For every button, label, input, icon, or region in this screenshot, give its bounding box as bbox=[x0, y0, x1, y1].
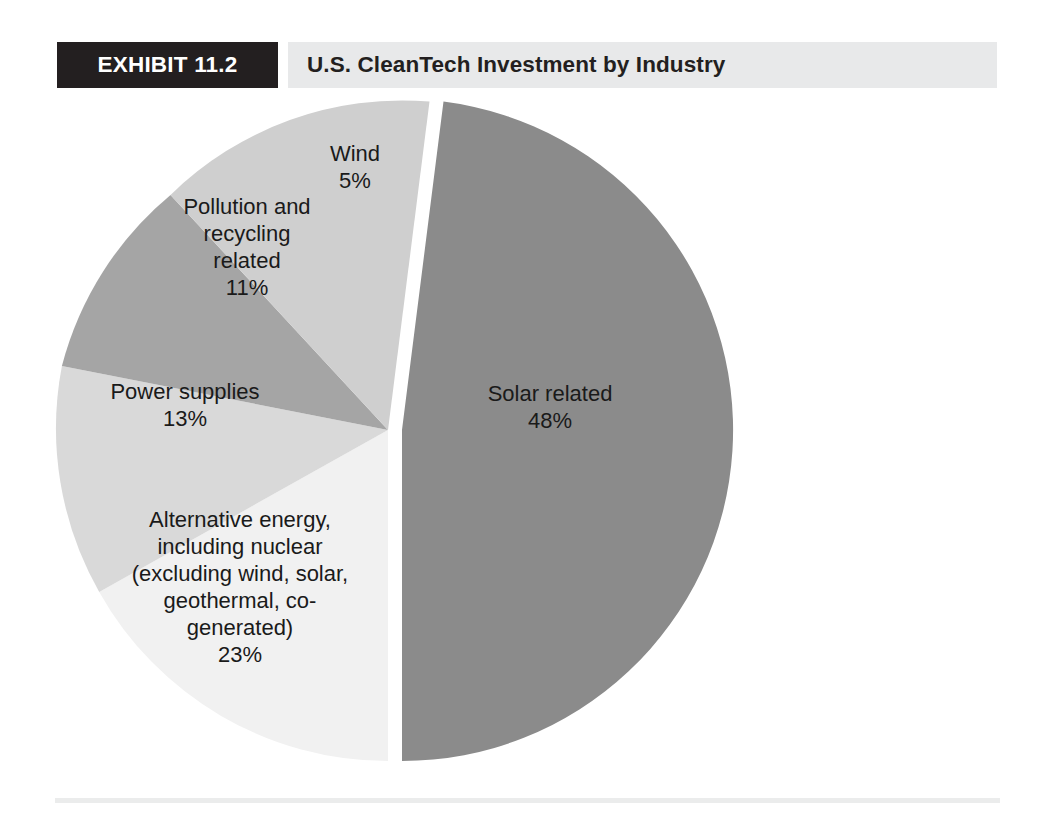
footer-divider bbox=[55, 798, 1000, 803]
pie-slice-solar-related[interactable] bbox=[402, 102, 733, 761]
exhibit-number-label: EXHIBIT 11.2 bbox=[98, 52, 238, 78]
exhibit-header: EXHIBIT 11.2 U.S. CleanTech Investment b… bbox=[57, 42, 997, 88]
pie-chart: Wind 5% Pollution and recycling related … bbox=[0, 88, 1053, 778]
exhibit-title-bar: U.S. CleanTech Investment by Industry bbox=[288, 42, 997, 88]
pie-chart-graphic bbox=[40, 88, 760, 778]
exhibit-number-badge: EXHIBIT 11.2 bbox=[57, 42, 278, 88]
page-title: U.S. CleanTech Investment by Industry bbox=[288, 52, 725, 78]
